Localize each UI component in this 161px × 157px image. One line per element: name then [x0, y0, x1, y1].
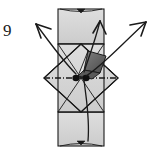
origami-diagram: [0, 0, 161, 157]
